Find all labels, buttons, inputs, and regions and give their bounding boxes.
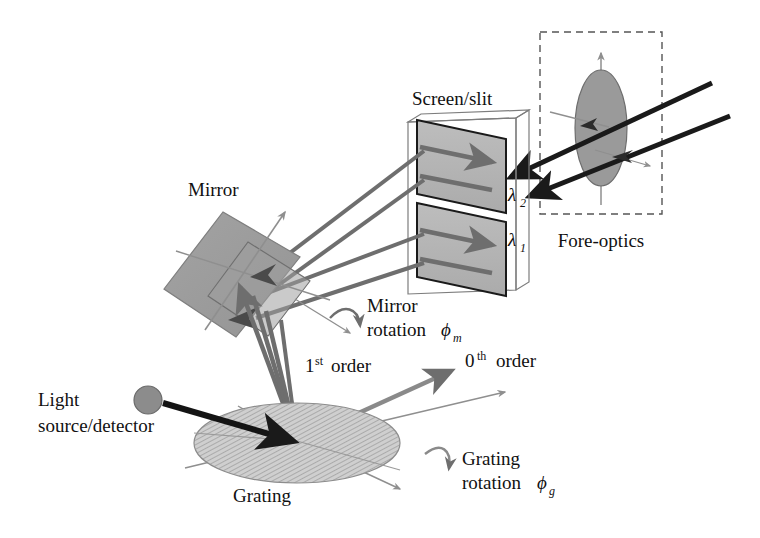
optical-diagram-figure: Fore-optics Screen/slit λ 2 λ	[0, 0, 760, 538]
fore-optics-label: Fore-optics	[558, 230, 645, 251]
light-source-dot	[134, 386, 162, 414]
lambda1-symbol: λ	[507, 229, 516, 250]
grating-label: Grating	[233, 485, 292, 506]
first-order-superscript: st	[315, 354, 324, 368]
grating-disk	[194, 403, 400, 483]
mirror-rotation-phi-subscript: m	[453, 331, 462, 345]
zero-order-superscript: th	[477, 349, 486, 363]
light-source-label-line2: source/detector	[38, 415, 155, 436]
zero-order-word: order	[496, 350, 537, 371]
mirror-rotation-phi: ϕ	[441, 319, 451, 340]
lambda2-symbol: λ	[507, 184, 516, 205]
screen-slit-label: Screen/slit	[412, 88, 493, 109]
lambda2-subscript: 2	[520, 196, 526, 210]
grating-rotation-phi-subscript: g	[549, 484, 555, 498]
lambda1-subscript: 1	[520, 241, 526, 255]
grating-rotation-line2: rotation	[462, 472, 522, 493]
zero-order-number: 0	[465, 350, 475, 371]
light-source-label-line1: Light	[38, 389, 80, 410]
mirror-rotation-line2: rotation	[367, 319, 427, 340]
diagram-canvas: Fore-optics Screen/slit λ 2 λ	[0, 0, 760, 538]
grating-rotation-line1: Grating	[462, 448, 521, 469]
first-order-number: 1	[305, 355, 315, 376]
mirror-rotation-line1: Mirror	[367, 295, 418, 316]
grating-rotation-phi: ϕ	[537, 472, 547, 493]
first-order-word: order	[331, 355, 372, 376]
mirror-label: Mirror	[188, 179, 239, 200]
